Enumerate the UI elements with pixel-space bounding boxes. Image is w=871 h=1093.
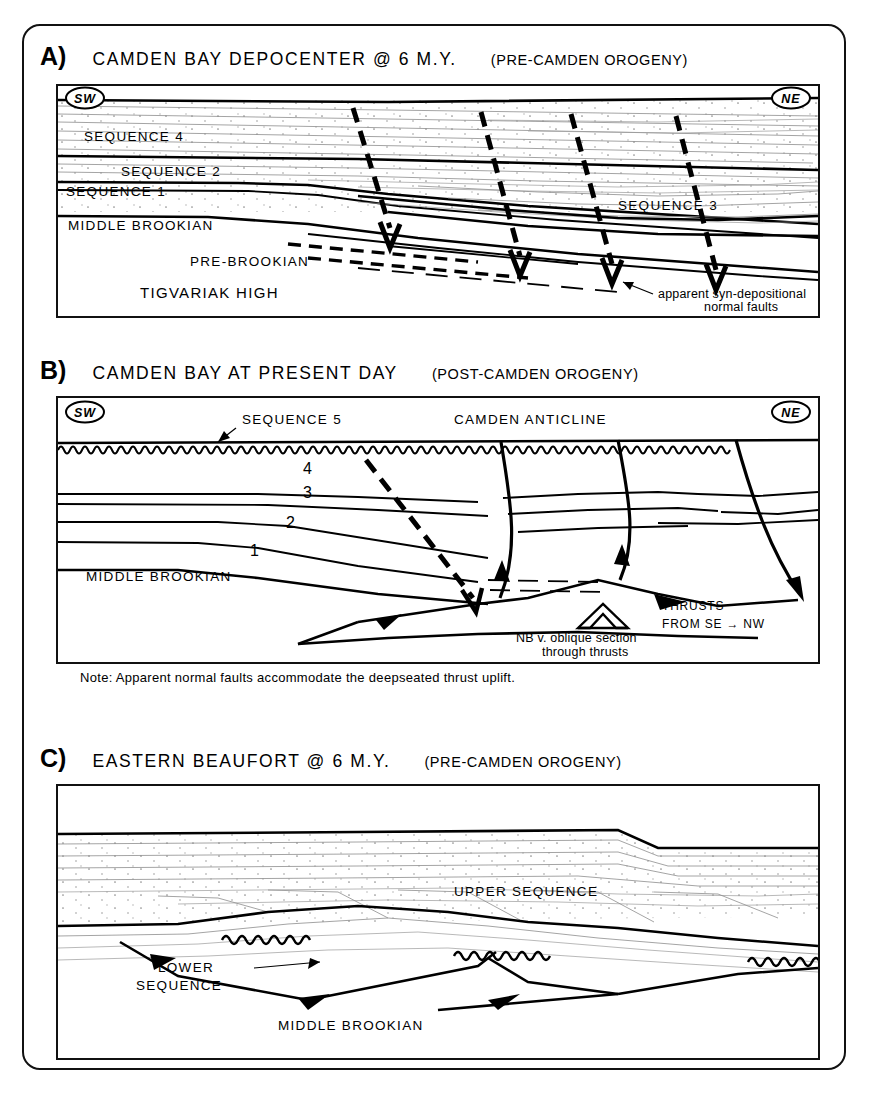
pre-brookian-horizon-a	[308, 234, 818, 280]
compass-sw-a-label: SW	[74, 92, 96, 106]
label-seq-num-4: 4	[303, 460, 312, 477]
panel-c-title: EASTERN BEAUFORT @ 6 M.Y.	[92, 751, 390, 772]
compass-sw-b: SW	[66, 402, 104, 423]
label-seq-num-3: 3	[303, 484, 312, 501]
panel-c-subtitle: (PRE-CAMDEN OROGENY)	[424, 754, 621, 770]
panel-b-title: CAMDEN BAY AT PRESENT DAY	[92, 363, 398, 384]
fault-note-line1: apparent syn-depositional	[658, 287, 806, 301]
panel-b-letter: B)	[40, 356, 66, 385]
compass-sw-b-label: SW	[74, 406, 96, 420]
thrust-symbol-icon	[578, 604, 628, 628]
unconformity-wavy-c3	[748, 958, 818, 966]
thrust-fault-1	[494, 442, 512, 598]
label-sequence-3: SEQUENCE 3	[618, 198, 718, 213]
panel-c-diagram: UPPER SEQUENCE LOWER SEQUENCE MIDDLE BRO…	[58, 786, 818, 1058]
normal-fault-b	[366, 460, 482, 612]
basement-dashed-faults-a	[288, 244, 618, 292]
label-tigvariak-high: TIGVARIAK HIGH	[140, 284, 279, 301]
sequence5-leader	[218, 428, 236, 442]
thrust-fault-c4	[618, 968, 818, 994]
panel-b-diagram: SW NE SEQUENCE 5 CAMDEN ANTICLINE 4 3 2 …	[58, 398, 818, 662]
sequence5-top	[58, 440, 818, 443]
label-seq-num-2: 2	[286, 514, 295, 531]
label-lower-sequence-line2: SEQUENCE	[136, 978, 222, 993]
fault-note-line2: normal faults	[704, 300, 778, 314]
compass-ne-a: NE	[772, 88, 810, 109]
label-middle-brookian-a: MIDDLE BROOKIAN	[68, 218, 214, 233]
fault-note-leader	[623, 282, 653, 294]
horizons-sw-b	[58, 494, 488, 604]
label-upper-sequence: UPPER SEQUENCE	[454, 884, 598, 899]
unconformity-wavy-c2	[454, 952, 550, 960]
unconformity-wavy-b	[58, 447, 730, 454]
panel-a-title: CAMDEN BAY DEPOCENTER @ 6 M.Y.	[92, 49, 456, 70]
panel-b-cross-section: SW NE SEQUENCE 5 CAMDEN ANTICLINE 4 3 2 …	[56, 396, 820, 664]
panel-a-header: A) CAMDEN BAY DEPOCENTER @ 6 M.Y. (PRE-C…	[40, 42, 688, 71]
lower-sequence-leader	[254, 958, 320, 969]
label-camden-anticline: CAMDEN ANTICLINE	[454, 412, 607, 427]
label-middle-brookian-c: MIDDLE BROOKIAN	[278, 1018, 424, 1033]
panel-c-cross-section: UPPER SEQUENCE LOWER SEQUENCE MIDDLE BRO…	[56, 784, 820, 1060]
panel-a-diagram: SW NE SEQUENCE 4 SEQUENCE 2 SEQUENCE 1 S…	[58, 86, 818, 316]
unconformity-wavy-c1	[222, 936, 310, 944]
panel-c-letter: C)	[40, 744, 66, 773]
panel-b-note: Note: Apparent normal faults accommodate…	[80, 670, 515, 685]
compass-sw-a: SW	[66, 88, 104, 109]
figure-outer-frame: A) CAMDEN BAY DEPOCENTER @ 6 M.Y. (PRE-C…	[22, 24, 846, 1070]
label-sequence-2: SEQUENCE 2	[121, 164, 221, 179]
panel-b-header: B) CAMDEN BAY AT PRESENT DAY (POST-CAMDE…	[40, 356, 639, 385]
label-lower-sequence-line1: LOWER	[158, 960, 214, 975]
compass-ne-b-label: NE	[781, 406, 800, 420]
label-sequence-5: SEQUENCE 5	[242, 412, 342, 427]
compass-ne-b: NE	[772, 402, 810, 423]
label-middle-brookian-b: MIDDLE BROOKIAN	[86, 569, 232, 584]
label-oblique-line1: NB v. oblique section	[516, 631, 637, 645]
panel-a-letter: A)	[40, 42, 66, 71]
label-oblique-line2: through thrusts	[542, 645, 628, 659]
panel-a-subtitle: (PRE-CAMDEN OROGENY)	[491, 52, 688, 68]
panel-c-header: C) EASTERN BEAUFORT @ 6 M.Y. (PRE-CAMDEN…	[40, 744, 622, 773]
label-thrusts-line2: FROM SE → NW	[662, 617, 765, 631]
compass-ne-a-label: NE	[781, 92, 800, 106]
panel-a-cross-section: SW NE SEQUENCE 4 SEQUENCE 2 SEQUENCE 1 S…	[56, 84, 820, 318]
label-sequence-4: SEQUENCE 4	[84, 129, 184, 144]
label-pre-brookian: PRE-BROOKIAN	[190, 254, 309, 269]
label-seq-num-1: 1	[250, 542, 259, 559]
panel-b-subtitle: (POST-CAMDEN OROGENY)	[432, 366, 639, 382]
thrust-fault-c3	[438, 958, 618, 1010]
label-thrusts-line1: THRUSTS	[662, 599, 724, 613]
thrust-blocks-b	[503, 492, 818, 532]
label-sequence-1: SEQUENCE 1	[66, 184, 166, 199]
